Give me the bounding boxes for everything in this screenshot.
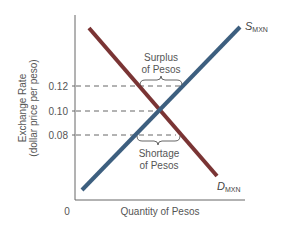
y-tick-label-1: 0.10	[49, 106, 69, 117]
demand-label-sub: MXN	[225, 186, 241, 193]
shortage-label-line1: Shortage	[139, 148, 180, 159]
origin-label: 0	[64, 206, 70, 217]
shortage-bracket-icon	[137, 136, 180, 145]
y-axis-label-line2: (dollar price per peso)	[28, 59, 39, 156]
surplus-label-line1: Surplus	[144, 52, 178, 63]
shortage-label-line2: of Pesos	[140, 160, 179, 171]
exchange-rate-chart: 0.12 0.10 0.08 0 Quantity of Pesos Excha…	[0, 0, 283, 231]
y-tick-label-0: 0.12	[49, 81, 69, 92]
y-tick-label-2: 0.08	[49, 130, 69, 141]
demand-label-main: D	[217, 180, 225, 192]
supply-label-sub: MXN	[252, 26, 268, 33]
supply-curve-label: SMXN	[245, 20, 268, 33]
x-axis-label: Quantity of Pesos	[121, 206, 200, 217]
demand-curve-label: DMXN	[217, 180, 241, 193]
surplus-bracket-icon	[140, 76, 182, 85]
chart-canvas: 0.12 0.10 0.08 0 Quantity of Pesos Excha…	[0, 0, 283, 231]
y-axis-label-line1: Exchange Rate	[17, 73, 28, 142]
surplus-label-line2: of Pesos	[142, 64, 181, 75]
